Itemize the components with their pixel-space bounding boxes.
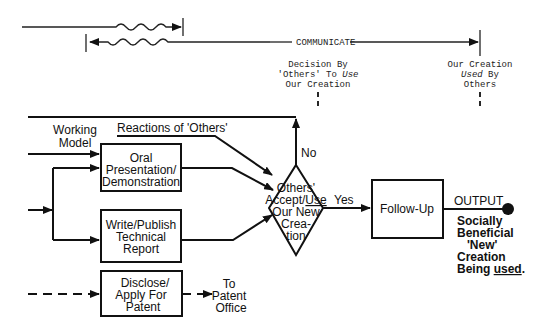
svg-text:Working: Working [53,123,97,137]
svg-text:tion: tion [286,229,305,243]
svg-text:Follow-Up: Follow-Up [380,202,434,216]
decision-diamond: Others' Accept/Use Our New Crea- tion [265,165,327,255]
oral-presentation-box: Oral Presentation/ Demonstration [101,144,273,191]
svg-text:Others: Others [464,80,496,90]
top-wave-arrow-right [22,18,183,36]
svg-text:Model: Model [59,136,92,150]
yes-label: Yes [334,193,354,207]
output: OUTPUT Socially Beneficial 'New' Creatio… [443,194,525,276]
innovation-communication-diagram: COMMUNICATE Decision By 'Others' To Use … [0,0,537,336]
svg-text:Report: Report [123,242,160,256]
communicate-timeline: COMMUNICATE [270,30,480,56]
decision-by-others-note: Decision By 'Others' To Use Our Creation [277,60,358,110]
svg-text:Our Creation: Our Creation [448,60,513,70]
yes-path: Yes [323,193,370,208]
svg-text:Patent: Patent [126,300,161,314]
write-publish-box: Write/Publish Technical Report [101,210,272,262]
top-wave-arrow-left [86,34,270,52]
working-model-input: Working Model [28,123,99,154]
svg-text:Reactions of 'Others': Reactions of 'Others' [117,121,228,135]
svg-text:'Others' To Use: 'Others' To Use [277,70,358,80]
creation-used-note: Our Creation Used By Others [448,60,513,108]
left-input-branch [28,168,99,240]
svg-text:Office: Office [215,301,246,315]
svg-text:Our Creation: Our Creation [286,80,351,90]
communicate-label: COMMUNICATE [296,38,355,48]
disclose-patent-box: Disclose/ Apply For Patent To Patent Off… [28,271,247,316]
svg-text:Decision By: Decision By [288,60,348,70]
follow-up-box: Follow-Up [372,180,443,238]
no-label: No [301,146,317,160]
svg-text:Being used.: Being used. [457,262,525,276]
svg-text:Used By: Used By [461,70,499,80]
output-label: OUTPUT [454,194,504,208]
output-endpoint-dot [502,203,514,215]
svg-text:Demonstration: Demonstration [102,175,180,189]
